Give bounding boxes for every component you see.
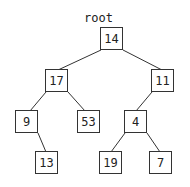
tree-node-53: 53: [77, 110, 100, 133]
tree-node-4: 4: [124, 110, 147, 133]
root-label: root: [84, 11, 113, 25]
edge-11-4: [136, 92, 152, 111]
edge-4-19: [111, 133, 125, 152]
tree-node-9: 9: [15, 110, 38, 133]
edge-4-7: [147, 133, 160, 152]
edge-9-13: [38, 133, 46, 152]
edge-14-11: [123, 50, 162, 70]
tree-node-11: 11: [151, 69, 174, 92]
tree-node-13: 13: [35, 151, 58, 174]
edge-14-17: [58, 50, 101, 70]
tree-node-19: 19: [99, 151, 122, 174]
tree-node-17: 17: [45, 69, 68, 92]
edge-17-9: [30, 92, 46, 111]
tree-node-7: 7: [149, 151, 172, 174]
tree-node-14: 14: [100, 27, 123, 50]
edge-17-53: [68, 92, 85, 111]
